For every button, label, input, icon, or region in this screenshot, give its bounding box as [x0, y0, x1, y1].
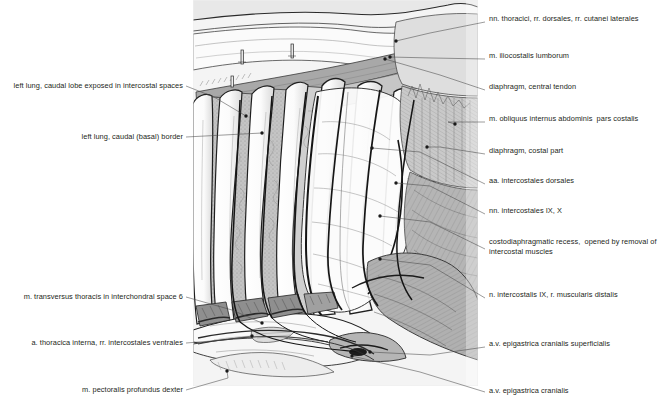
label-m-transversus-thoracis: m. transversus thoracis in interchondral… — [24, 292, 183, 302]
leader-dot — [453, 122, 456, 125]
label-m-obliquus-internus-abdominis: m. obliquus internus abdominis pars cost… — [489, 114, 638, 124]
label-av-epigastrica-cranialis: a.v. epigastrica cranialis — [489, 386, 569, 396]
leader-dot — [244, 114, 247, 117]
leader-dot — [250, 334, 253, 337]
label-diaphragm-central-tendon: diaphragm, central tendon — [489, 82, 576, 92]
label-n-intercostalis-ix: n. intercostalis IX, r. muscularis dista… — [489, 290, 618, 300]
leader-dot — [394, 39, 397, 42]
label-costodiaphragmatic-recess: costodiaphragmatic recess, opened by rem… — [489, 237, 657, 256]
leader-dot — [378, 214, 381, 217]
label-nn-intercostales-ix-x: nn. intercostales IX, X — [489, 206, 562, 216]
label-left-lung-caudal-basal-border: left lung, caudal (basal) border — [82, 132, 183, 142]
leader-dot — [350, 354, 353, 357]
label-nn-thoracici-rr-dorsales: nn. thoracici, rr. dorsales, rr. cutanei… — [489, 14, 639, 24]
label-diaphragm-costal-part: diaphragm, costal part — [489, 146, 563, 156]
leader-dot — [425, 145, 428, 148]
leader-dot — [260, 131, 263, 134]
leader-dot — [370, 146, 373, 149]
label-left-lung-caudal-lobe: left lung, caudal lobe exposed in interc… — [14, 81, 183, 91]
leader-dot — [225, 369, 228, 372]
label-a-thoracica-interna: a. thoracica interna, rr. intercostales … — [31, 338, 183, 348]
leader-dot — [388, 55, 391, 58]
leader-dot — [383, 57, 386, 60]
label-av-epigastrica-cranialis-superficialis: a.v. epigastrica cranialis superficialis — [489, 339, 610, 349]
leader-dot — [394, 181, 397, 184]
label-aa-intercostales-dorsales: aa. intercostales dorsales — [489, 176, 574, 186]
leader-dot — [260, 321, 263, 324]
label-m-iliocostalis-lumborum: m. iliocostalis lumborum — [489, 51, 569, 61]
leader-dot — [368, 350, 371, 353]
label-m-pectoralis-profundus-dexter: m. pectoralis profundus dexter — [82, 385, 183, 395]
leader-dot — [378, 257, 381, 260]
